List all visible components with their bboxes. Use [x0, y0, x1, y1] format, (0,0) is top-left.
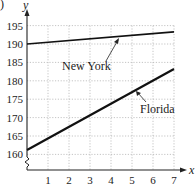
x-tick-label: 4	[108, 174, 114, 185]
grid-lines	[27, 26, 174, 170]
y-tick-label: 185	[7, 56, 24, 68]
y-tick-label: 160	[7, 148, 24, 160]
x-tick-labels: 1234567	[45, 174, 177, 185]
x-tick-label: 2	[66, 174, 72, 185]
y-tick-label: 170	[7, 112, 24, 124]
series-line-new-york	[27, 32, 174, 44]
line-chart: 160165170175180185190195 1234567 New Yor…	[0, 0, 196, 185]
y-tick-label: 195	[7, 20, 24, 32]
series-label-florida: Florida	[140, 102, 175, 116]
x-tick-label: 5	[129, 174, 135, 185]
data-series	[27, 32, 174, 150]
y-tick-label: 190	[7, 38, 24, 50]
x-axis-arrow-icon	[180, 168, 187, 173]
x-tick-label: 6	[150, 174, 156, 185]
series-label-new-york: New York	[62, 59, 111, 73]
new-york-arrow-icon	[114, 38, 119, 44]
y-tick-label: 165	[7, 130, 24, 142]
y-axis-label: y	[22, 0, 29, 12]
y-tick-labels: 160165170175180185190195	[7, 20, 24, 161]
axis-break-icon	[25, 157, 29, 170]
y-tick-label: 175	[7, 93, 24, 105]
x-axis-label: x	[188, 163, 195, 177]
x-tick-label: 1	[45, 174, 51, 185]
new-york-pointer	[106, 40, 118, 61]
x-tick-label: 3	[87, 174, 93, 185]
x-tick-label: 7	[171, 174, 177, 185]
panel-label: )	[0, 0, 4, 11]
y-tick-label: 180	[7, 75, 24, 87]
